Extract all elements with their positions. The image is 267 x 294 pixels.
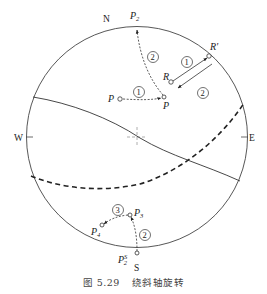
label-P2S: PS2 [117, 253, 128, 266]
svg-text:2: 2 [201, 88, 205, 98]
step-badge-R-2: 2 [198, 88, 209, 99]
point-P2S [135, 251, 139, 255]
center-cross-icon [127, 127, 147, 147]
point-R-prime [207, 54, 211, 58]
label-R: R [162, 71, 169, 82]
rotation-path-P-step2 [137, 30, 163, 95]
stereonet-diagram: N S W E P P P2 R R' P3 P4 PS2 1 2 1 2 3 … [0, 0, 267, 294]
rotation-path-R-step2 [178, 64, 212, 88]
label-R-prime: R' [209, 41, 219, 52]
point-P [118, 97, 122, 101]
label-P2: P2 [129, 10, 140, 22]
point-R [169, 80, 173, 84]
point-P4 [100, 223, 104, 227]
figure-caption: 图 5.29绕斜轴旋转 [0, 275, 267, 289]
label-P3: P3 [133, 207, 144, 219]
label-west: W [14, 133, 23, 143]
step-badge-bottom-2: 2 [140, 230, 151, 241]
point-P-rotated [162, 95, 166, 99]
dashed-great-circle [31, 103, 244, 189]
svg-text:1: 1 [185, 57, 189, 67]
rotation-path-P-step1 [123, 98, 161, 100]
label-east: E [249, 133, 255, 143]
step-badge-R-1: 1 [182, 57, 193, 68]
step-badge-P-2: 2 [148, 52, 159, 63]
label-P-rotated: P [162, 100, 169, 111]
point-P3 [128, 213, 132, 217]
step-badge-P-1: 1 [134, 87, 145, 98]
rotation-path-bottom-step2 [131, 217, 137, 251]
caption-number: 图 5.29 [83, 277, 120, 288]
label-P: P [107, 93, 114, 104]
solid-great-circle [33, 97, 240, 181]
step-badge-bottom-3: 3 [113, 205, 124, 216]
svg-text:1: 1 [137, 87, 141, 97]
caption-title: 绕斜轴旋转 [132, 277, 185, 288]
label-P4: P4 [90, 226, 101, 238]
label-north: N [103, 14, 110, 24]
rotation-path-bottom-step3 [104, 215, 128, 224]
svg-text:3: 3 [116, 205, 120, 215]
svg-text:2: 2 [151, 52, 155, 62]
label-south: S [134, 263, 139, 273]
svg-text:2: 2 [143, 230, 147, 240]
